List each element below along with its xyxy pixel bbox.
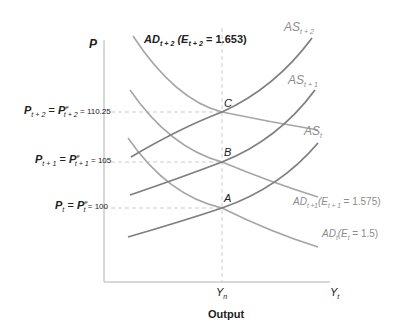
ad-t2-val: = 1.653): [203, 33, 247, 45]
p-t1-sup: e: [76, 153, 79, 159]
ad-t1-main: AD: [293, 196, 307, 207]
point-b-label: B: [224, 146, 231, 158]
p-t1-eq: =: [56, 153, 69, 165]
as-t1-label: ASt + 1: [288, 73, 318, 88]
point-a-label: A: [224, 192, 231, 204]
ad-t1-open: (E: [318, 196, 328, 207]
p-t1-value: = 105: [89, 156, 111, 165]
as-t-sub: t: [320, 132, 322, 139]
ad-t-main: AD: [322, 228, 336, 239]
ad-t2-label: ADt + 2 (Et + 2 = 1.653): [144, 33, 247, 48]
ad-t-open: (E: [338, 228, 348, 239]
as-t-curve: [128, 143, 318, 237]
as-t2-label: ASt + 2: [284, 20, 314, 35]
p-t2-sub: t + 2: [31, 111, 45, 119]
p-t2-sub2: t + 2: [64, 111, 78, 119]
y-axis-label: P: [89, 37, 97, 51]
x-axis-title: Output: [208, 308, 244, 320]
yt-sub: t: [337, 293, 339, 301]
as-t-label: ASt: [304, 124, 322, 139]
ad-t1-label: ADt +1(Et + 1 = 1.575): [293, 196, 381, 209]
as-t1-sub: t + 1: [304, 81, 318, 88]
p-t1-label: Pt + 1 = Pet + 1 = 105: [35, 153, 111, 168]
p-t1-sub2: t + 1: [75, 160, 89, 168]
p-t2-label: Pt + 2 = Pet + 2 = 110.25: [24, 104, 111, 119]
p-t-value: = 100: [86, 202, 108, 211]
p-t1-sub: t + 1: [42, 160, 56, 168]
ad-t2-sub: t + 2: [160, 40, 175, 48]
p-t-label: Pt = Pet = 100: [55, 199, 108, 214]
p-t-eq: =: [64, 199, 77, 211]
ad-t-val: = 1.5): [350, 228, 379, 239]
as-t2-curve: [131, 38, 312, 157]
as-t2-main: AS: [284, 20, 300, 34]
ad-t1-sub: t +1: [307, 202, 318, 209]
yt-axis-end-label: Yt: [330, 286, 339, 301]
point-c-label: C: [224, 97, 232, 109]
p-t2-value: = 110.25: [78, 107, 111, 116]
ad-t2-main: AD: [144, 33, 160, 45]
ad-t-curve: [128, 138, 318, 247]
ad-t2-open: (E: [174, 33, 188, 45]
ad-t1-esub: t + 1: [328, 202, 341, 209]
as-t2-sub: t + 2: [300, 28, 314, 35]
p-t2-eq: =: [45, 104, 58, 116]
yn-sub: n: [223, 293, 227, 301]
as-t-main: AS: [304, 124, 320, 138]
ad-t-label: ADt(Et = 1.5): [322, 228, 378, 241]
ad-t2-esub: t + 2: [188, 40, 203, 48]
ad-t1-val: = 1.575): [341, 196, 381, 207]
p-t2-sup: e: [65, 104, 68, 110]
as-t1-main: AS: [288, 73, 304, 87]
yn-tick-label: Yn: [216, 286, 227, 301]
